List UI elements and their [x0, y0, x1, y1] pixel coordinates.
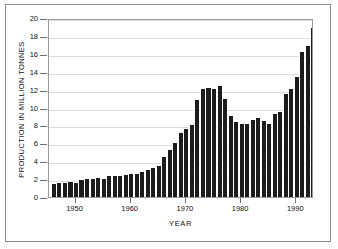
bar-1959 — [123, 175, 128, 197]
bar-1986 — [272, 114, 277, 197]
bar-1992 — [305, 46, 310, 197]
bar-1952 — [84, 179, 89, 197]
bar-1956 — [106, 176, 111, 197]
bar-1979 — [233, 122, 238, 197]
bar-1960 — [128, 174, 133, 197]
y-tick-16 — [40, 55, 47, 56]
y-tick-label-20: 20 — [16, 15, 38, 23]
bar-1991 — [299, 52, 304, 197]
bar-1947 — [56, 183, 61, 197]
bar-1983 — [255, 118, 260, 197]
bar-1948 — [62, 183, 67, 197]
y-tick-12 — [40, 91, 47, 92]
y-tick-6 — [40, 144, 47, 145]
bar-1954 — [95, 178, 100, 197]
y-tick-2 — [40, 180, 47, 181]
x-axis-title: YEAR — [48, 219, 313, 228]
bar-1970 — [183, 129, 188, 197]
bar-1987 — [277, 112, 282, 197]
y-tick-label-0: 0 — [16, 194, 38, 202]
y-tick-20 — [40, 19, 47, 20]
x-tick-label-1980: 1980 — [223, 204, 257, 213]
chart-figure: PRODUCTION IN MILLION TONNES 02468101214… — [0, 0, 338, 249]
y-tick-label-18: 18 — [16, 33, 38, 41]
bar-1988 — [283, 94, 288, 197]
x-tick-label-1960: 1960 — [113, 204, 147, 213]
bar-1993 — [310, 28, 313, 197]
bar-1975 — [211, 89, 216, 197]
bar-1966 — [161, 157, 166, 197]
bar-1955 — [101, 179, 106, 197]
bar-1953 — [90, 179, 95, 197]
bar-1989 — [288, 89, 293, 197]
y-tick-label-6: 6 — [16, 140, 38, 148]
x-tick-1950 — [75, 198, 76, 203]
bar-1981 — [244, 124, 249, 197]
bar-1957 — [112, 176, 117, 197]
bar-1950 — [73, 183, 78, 197]
bar-1974 — [205, 88, 210, 197]
bar-1963 — [145, 170, 150, 197]
x-tick-1990 — [295, 198, 296, 203]
x-tick-label-1970: 1970 — [168, 204, 202, 213]
bar-1964 — [150, 168, 155, 197]
bar-1984 — [261, 121, 266, 197]
bar-series — [49, 20, 312, 197]
y-tick-label-12: 12 — [16, 87, 38, 95]
y-tick-label-14: 14 — [16, 69, 38, 77]
bar-1969 — [178, 133, 183, 197]
x-tick-1970 — [185, 198, 186, 203]
y-tick-14 — [40, 73, 47, 74]
bar-1973 — [200, 89, 205, 197]
bar-1978 — [228, 116, 233, 197]
plot-area — [48, 19, 313, 198]
x-tick-1980 — [240, 198, 241, 203]
bar-1980 — [239, 124, 244, 197]
bar-1961 — [134, 174, 139, 197]
bar-1971 — [189, 125, 194, 197]
y-tick-4 — [40, 162, 47, 163]
y-tick-0 — [40, 198, 47, 199]
y-tick-8 — [40, 126, 47, 127]
y-tick-label-8: 8 — [16, 122, 38, 130]
bar-1985 — [266, 124, 271, 197]
y-tick-label-16: 16 — [16, 51, 38, 59]
bar-1949 — [67, 182, 72, 197]
bar-1982 — [250, 120, 255, 197]
y-tick-label-10: 10 — [16, 105, 38, 113]
bar-1972 — [194, 100, 199, 197]
bar-1951 — [78, 180, 83, 197]
bar-1965 — [156, 166, 161, 197]
x-tick-label-1990: 1990 — [278, 204, 312, 213]
bar-1958 — [117, 176, 122, 197]
bar-1977 — [222, 99, 227, 197]
y-tick-label-2: 2 — [16, 176, 38, 184]
y-tick-18 — [40, 37, 47, 38]
bar-1968 — [172, 143, 177, 197]
x-tick-label-1950: 1950 — [58, 204, 92, 213]
bar-1962 — [139, 172, 144, 197]
bar-1946 — [51, 184, 56, 197]
y-tick-label-4: 4 — [16, 158, 38, 166]
x-tick-1960 — [130, 198, 131, 203]
bar-1990 — [294, 77, 299, 197]
y-tick-10 — [40, 109, 47, 110]
bar-1976 — [217, 86, 222, 197]
bar-1967 — [167, 150, 172, 197]
